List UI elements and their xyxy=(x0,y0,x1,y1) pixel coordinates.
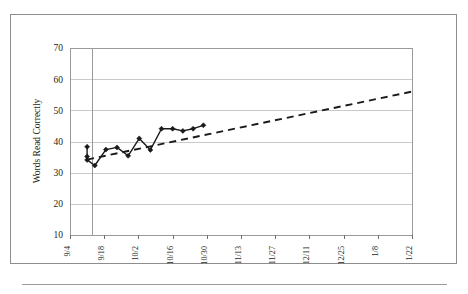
y-axis-tick-labels: 10203040506070 xyxy=(54,43,64,240)
x-tick-label: 10/2 xyxy=(131,246,140,261)
plot-area-background xyxy=(70,48,412,235)
x-tick-label: 10/16 xyxy=(166,246,175,265)
x-axis-tick-marks xyxy=(71,235,413,239)
x-tick-label: 12/25 xyxy=(337,246,346,265)
y-tick-label: 30 xyxy=(54,168,64,178)
chart-page: 10203040506070 Words Read Correctly 9/49… xyxy=(0,0,468,294)
chart-canvas: 10203040506070 Words Read Correctly 9/49… xyxy=(0,0,468,294)
y-tick-label: 50 xyxy=(54,106,64,116)
y-tick-label: 20 xyxy=(54,199,64,209)
x-tick-label: 11/13 xyxy=(234,246,243,264)
x-tick-label: 9/18 xyxy=(97,246,106,261)
y-tick-label: 60 xyxy=(54,75,64,85)
x-tick-label: 9/4 xyxy=(63,246,72,256)
y-axis-title: Words Read Correctly xyxy=(32,98,42,183)
y-tick-label: 70 xyxy=(54,43,64,53)
x-tick-label: 12/11 xyxy=(302,246,311,264)
y-tick-label: 40 xyxy=(54,137,64,147)
x-tick-label: 1/8 xyxy=(371,246,380,256)
x-tick-label: 11/27 xyxy=(268,246,277,264)
line-chart: 10203040506070 Words Read Correctly 9/49… xyxy=(0,0,468,294)
x-axis-tick-labels: 9/49/1810/210/1610/3011/1311/2712/1112/2… xyxy=(63,246,414,265)
x-tick-label: 1/22 xyxy=(405,246,414,261)
y-tick-label: 10 xyxy=(54,230,64,240)
x-tick-label: 10/30 xyxy=(200,246,209,265)
